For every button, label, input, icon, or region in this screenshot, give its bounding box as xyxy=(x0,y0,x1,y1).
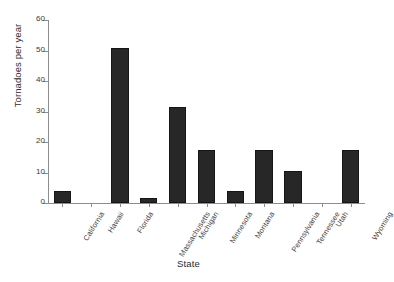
x-tick-mark xyxy=(293,203,294,207)
bar xyxy=(227,191,244,203)
plot-area: 0102030405060 CaliforniaHawaiiFloridaMas… xyxy=(48,20,365,203)
y-tick-label: 10 xyxy=(21,167,45,176)
y-tick-label: 40 xyxy=(21,75,45,84)
bar xyxy=(255,150,272,203)
x-tick-label: Wyoming xyxy=(370,210,394,242)
x-tick-label: California xyxy=(82,210,107,242)
y-tick-label: 30 xyxy=(21,106,45,115)
y-tick-label: 60 xyxy=(21,14,45,23)
x-tick-label: Minnesota xyxy=(227,210,253,245)
bar xyxy=(140,198,157,203)
bar xyxy=(342,150,359,203)
bar xyxy=(111,48,128,203)
x-tick-mark xyxy=(149,203,150,207)
x-tick-mark xyxy=(322,203,323,207)
x-tick-mark xyxy=(264,203,265,207)
bar xyxy=(54,191,71,203)
y-axis-title: Tornadoes per year xyxy=(12,11,23,121)
y-tick-label: 50 xyxy=(21,45,45,54)
x-axis-title: State xyxy=(0,258,377,269)
x-tick-label: Florida xyxy=(135,210,155,235)
x-tick-mark xyxy=(207,203,208,207)
x-tick-label: Montana xyxy=(253,210,276,240)
x-tick-mark xyxy=(91,203,92,207)
x-tick-mark xyxy=(235,203,236,207)
bar xyxy=(198,150,215,203)
x-tick-mark xyxy=(178,203,179,207)
y-axis-line xyxy=(48,20,49,203)
bar xyxy=(169,107,186,203)
x-tick-label: Hawaii xyxy=(106,210,126,234)
y-tick-label: 0 xyxy=(21,197,45,206)
y-tick-label: 20 xyxy=(21,136,45,145)
x-tick-label: Pennsylvania xyxy=(290,210,322,254)
x-tick-mark xyxy=(62,203,63,207)
x-tick-mark xyxy=(120,203,121,207)
x-tick-mark xyxy=(351,203,352,207)
bar xyxy=(284,171,301,203)
